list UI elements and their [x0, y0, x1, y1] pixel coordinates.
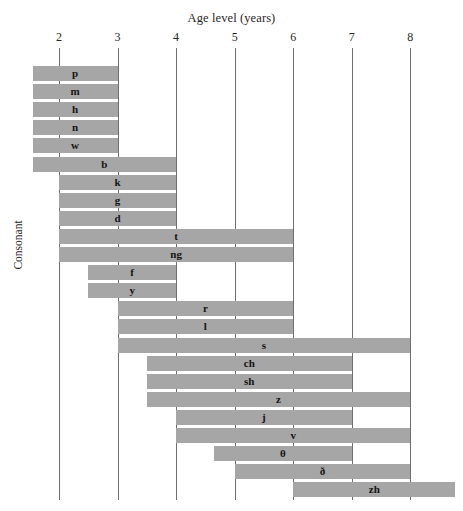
bar-row: s — [0, 338, 463, 353]
x-tick-label-3: 3 — [106, 30, 130, 45]
bar-m — [33, 84, 118, 99]
bar-row: n — [0, 120, 463, 135]
bar-b — [33, 157, 176, 172]
bar-ng — [59, 247, 293, 262]
bar-zh — [293, 482, 455, 497]
bar-row: t — [0, 229, 463, 244]
bar-k — [59, 175, 176, 190]
bar-row: j — [0, 410, 463, 425]
bar-row: f — [0, 265, 463, 280]
bar-t — [59, 229, 293, 244]
bar-s — [118, 338, 411, 353]
bar-row: l — [0, 319, 463, 334]
bar-row: p — [0, 66, 463, 81]
bar-ð — [235, 464, 411, 479]
x-tick-label-8: 8 — [398, 30, 422, 45]
bar-p — [33, 66, 118, 81]
bar-row: z — [0, 392, 463, 407]
bar-row: θ — [0, 446, 463, 461]
bar-row: g — [0, 193, 463, 208]
x-tick-label-6: 6 — [281, 30, 305, 45]
bar-row: sh — [0, 374, 463, 389]
bar-n — [33, 120, 118, 135]
bar-row: zh — [0, 482, 463, 497]
bar-z — [147, 392, 410, 407]
bar-w — [33, 138, 118, 153]
consonant-acquisition-chart: Age level (years) Consonant 2345678 pmhn… — [0, 0, 463, 511]
bar-r — [118, 301, 294, 316]
bar-row: b — [0, 157, 463, 172]
plot-area: 2345678 pmhnwbkgdtngfyrlschshzjvθðzh — [0, 0, 463, 511]
bar-y — [88, 283, 176, 298]
x-tick-label-7: 7 — [340, 30, 364, 45]
bar-row: r — [0, 301, 463, 316]
bar-row: k — [0, 175, 463, 190]
bar-sh — [147, 374, 352, 389]
bar-h — [33, 102, 118, 117]
bar-f — [88, 265, 176, 280]
bar-row: m — [0, 84, 463, 99]
bar-row: w — [0, 138, 463, 153]
bar-d — [59, 211, 176, 226]
bar-ch — [147, 356, 352, 371]
bar-g — [59, 193, 176, 208]
bar-row: y — [0, 283, 463, 298]
x-tick-label-4: 4 — [164, 30, 188, 45]
x-tick-label-2: 2 — [47, 30, 71, 45]
bar-j — [176, 410, 352, 425]
bar-row: ng — [0, 247, 463, 262]
bar-row: v — [0, 428, 463, 443]
bar-row: ð — [0, 464, 463, 479]
bar-row: ch — [0, 356, 463, 371]
x-tick-label-5: 5 — [223, 30, 247, 45]
bar-v — [176, 428, 410, 443]
bar-row: h — [0, 102, 463, 117]
bar-θ — [214, 446, 352, 461]
bar-row: d — [0, 211, 463, 226]
bar-l — [118, 319, 294, 334]
